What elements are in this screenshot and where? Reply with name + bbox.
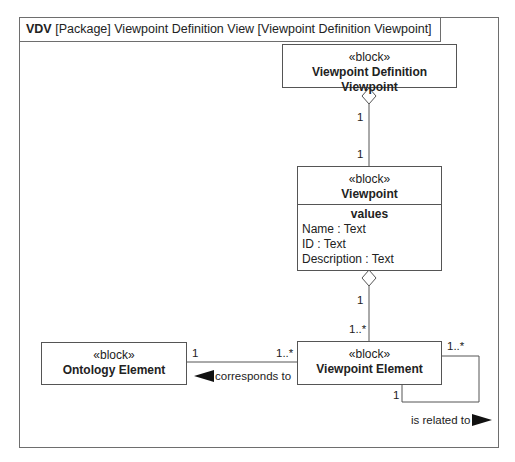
block-stereotype: «block» xyxy=(42,348,186,363)
multiplicity-viewpoint-whole: 1 xyxy=(357,294,363,307)
multiplicity-self-target: 1 xyxy=(393,389,399,402)
association-label-is-related-to: is related to xyxy=(411,414,470,427)
property-description: Description : Text xyxy=(302,252,437,267)
block-stereotype: «block» xyxy=(298,347,441,362)
block-stereotype: «block» xyxy=(283,50,456,65)
compartment-title: values xyxy=(302,207,437,222)
block-stereotype: «block» xyxy=(298,172,441,187)
direction-arrow-right-icon xyxy=(472,414,492,426)
aggregation-diamond-icon xyxy=(362,270,376,286)
block-viewpoint[interactable]: «block» Viewpoint values Name : Text ID … xyxy=(297,166,442,271)
block-name: Viewpoint xyxy=(298,187,441,202)
values-compartment: values Name : Text ID : Text Description… xyxy=(298,204,441,267)
multiplicity-element-part: 1..* xyxy=(349,323,366,336)
block-name: Ontology Element xyxy=(42,363,186,378)
property-name: Name : Text xyxy=(302,222,437,237)
multiplicity-element-end: 1..* xyxy=(276,347,293,360)
block-name: Viewpoint Element xyxy=(298,362,441,377)
multiplicity-viewpoint-part: 1 xyxy=(357,148,363,161)
block-viewpoint-definition-viewpoint[interactable]: «block» Viewpoint Definition Viewpoint xyxy=(282,44,457,88)
direction-arrow-left-icon xyxy=(194,370,214,382)
association-label-corresponds-to: corresponds to xyxy=(215,370,291,383)
property-id: ID : Text xyxy=(302,237,437,252)
block-ontology-element[interactable]: «block» Ontology Element xyxy=(41,342,187,385)
multiplicity-self-source: 1..* xyxy=(447,340,464,353)
block-name: Viewpoint Definition Viewpoint xyxy=(283,65,456,95)
multiplicity-ontology-end: 1 xyxy=(192,347,198,360)
multiplicity-vdv-whole: 1 xyxy=(357,111,363,124)
block-viewpoint-element[interactable]: «block» Viewpoint Element xyxy=(297,341,442,385)
